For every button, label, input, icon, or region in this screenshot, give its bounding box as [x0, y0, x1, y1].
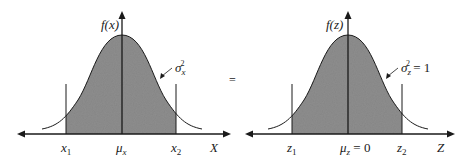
left-x-axis-arrow-right-icon	[223, 131, 231, 138]
right-distribution-panel: f(z) Z z1 μz = 0 z2 σz2 = 1	[245, 11, 455, 157]
right-x-axis-arrow-left-icon	[245, 131, 253, 138]
left-distribution-panel: f(x) X x1 μx x2 σx2	[17, 11, 231, 157]
left-y-axis-label: f(x)	[101, 17, 119, 32]
left-x-axis-label: X	[209, 140, 219, 155]
left-x-axis-arrow-left-icon	[17, 131, 25, 138]
right-tick-z1: z1	[286, 140, 297, 157]
equals-sign: =	[229, 73, 236, 87]
right-tick-mu: μz = 0	[339, 140, 370, 157]
left-variance-label: σx2	[175, 59, 185, 77]
left-tick-mu: μx	[115, 140, 127, 157]
left-tick-x2: x2	[170, 140, 181, 157]
right-y-axis-arrow-icon	[345, 11, 352, 19]
right-tick-z2: z2	[396, 140, 407, 157]
right-variance-label: σz2 = 1	[401, 59, 430, 77]
normal-standardization-diagram: f(x) X x1 μx x2 σx2 = f(z) Z z1 μz = 0 z…	[0, 0, 467, 158]
right-y-axis-label: f(z)	[326, 17, 343, 32]
left-tick-x1: x1	[60, 140, 71, 157]
right-x-axis-arrow-right-icon	[447, 131, 455, 138]
left-sigma-leader	[162, 68, 172, 76]
right-x-axis-label: Z	[437, 140, 445, 155]
left-y-axis-arrow-icon	[119, 11, 126, 19]
right-sigma-leader	[388, 68, 398, 76]
